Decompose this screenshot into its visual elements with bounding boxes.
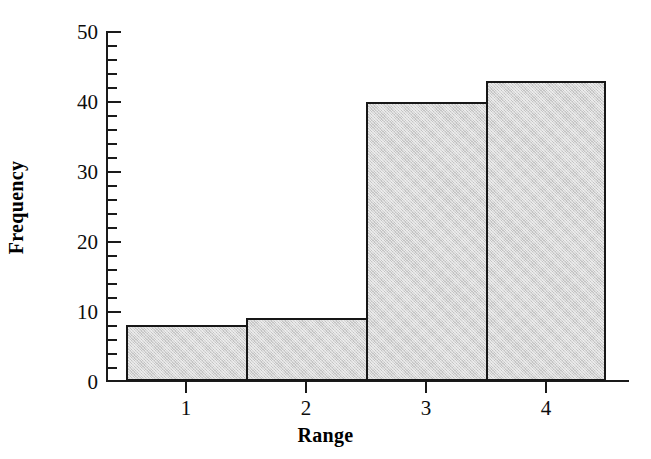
bar-range-2 [246, 318, 369, 381]
x-tick-4 [545, 382, 547, 393]
x-tick-label-1: 1 [181, 396, 192, 421]
y-tick-label-0: 0 [88, 372, 99, 393]
x-tick-1 [185, 382, 187, 393]
y-axis-tick-labels: 50 40 30 20 10 0 [40, 0, 98, 459]
x-tick-2 [305, 382, 307, 393]
x-tick-label-4: 4 [541, 396, 552, 421]
histogram-chart: 50 40 30 20 10 0 [0, 0, 651, 459]
y-tick-label-30: 30 [77, 162, 98, 183]
y-tick-label-10: 10 [77, 302, 98, 323]
y-tick-label-40: 40 [77, 92, 98, 113]
bar-range-1 [126, 325, 249, 381]
y-tick-label-20: 20 [77, 232, 98, 253]
bar-range-4 [486, 81, 606, 381]
y-axis-title: Frequency [5, 128, 28, 288]
x-tick-label-3: 3 [421, 396, 432, 421]
x-tick-3 [425, 382, 427, 393]
plot-area [106, 32, 626, 381]
y-tick-label-50: 50 [77, 22, 98, 43]
x-axis-title: Range [0, 424, 651, 447]
bar-range-3 [366, 102, 489, 381]
x-tick-label-2: 2 [301, 396, 312, 421]
